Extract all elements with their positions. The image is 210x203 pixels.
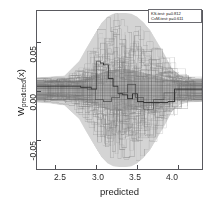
x-tick-label-1: 3.0 [86,172,110,182]
x-axis-title: predicted [36,186,203,197]
y-tick-label-1: 0.00 [28,94,38,111]
residual-plot-figure: KS-test: p=0.812 CvM-test: p=0.611 2.5 3… [0,0,210,203]
y-axis-title-main: W [15,106,26,115]
y-axis-title-sub: predicted [20,80,27,107]
y-axis-title-tail: (x) [15,69,26,80]
y-tick-mark-1 [37,91,41,92]
y-tick-mark-2 [37,42,41,43]
legend-line-cvm-test: CvM-test: p=0.611 [151,16,199,21]
x-tick-label-0: 2.5 [48,172,72,182]
y-axis-title: Wpredicted(x) [14,52,26,132]
x-tick-label-3: 4.0 [160,172,184,182]
y-tick-label-2: -0.05 [28,141,38,160]
plot-canvas [37,11,202,169]
x-tick-mark-0 [55,165,56,169]
plot-area [36,10,203,170]
legend-box: KS-test: p=0.812 CvM-test: p=0.611 [148,9,202,23]
x-tick-mark-2 [137,165,138,169]
x-tick-label-2: 3.5 [123,172,147,182]
x-tick-mark-3 [178,165,179,169]
x-tick-mark-1 [96,165,97,169]
y-tick-label-0: 0.05 [28,46,38,63]
